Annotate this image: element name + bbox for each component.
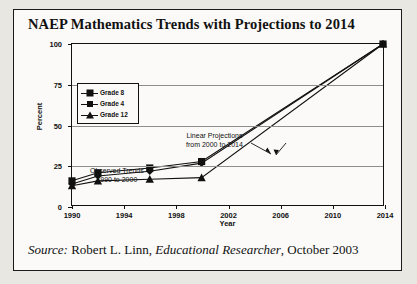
legend-item-grade-12: Grade 12 [81, 109, 135, 120]
legend-marker-square-icon [81, 87, 98, 98]
legend-label-grade-12: Grade 12 [98, 111, 128, 118]
x-tick-label-2002: 2002 [220, 211, 237, 220]
y-tick-label-75: 75 [54, 80, 62, 89]
page-title: NAEP Mathematics Trends with Projections… [28, 16, 355, 33]
x-tick-mark-1990 [72, 205, 73, 209]
annotation-projections-line2: from 2000 to 2014 [186, 140, 243, 149]
x-tick-label-1990: 1990 [64, 211, 81, 220]
legend-marker-diamond-icon [81, 98, 98, 109]
y-tick-mark-75 [68, 85, 72, 86]
legend-label-grade-8: Grade 8 [98, 89, 124, 96]
y-tick-mark-50 [68, 126, 72, 127]
x-tick-mark-2002 [229, 205, 230, 209]
legend-item-grade-4: Grade 4 [81, 98, 135, 109]
x-tick-mark-1994 [124, 205, 125, 209]
figure-container: NAEP Mathematics Trends with Projections… [0, 0, 417, 284]
y-tick-mark-25 [68, 166, 72, 167]
x-tick-mark-2014 [385, 205, 386, 209]
legend-item-grade-8: Grade 8 [81, 87, 135, 98]
y-tick-label-25: 25 [54, 162, 62, 171]
x-tick-mark-1998 [176, 205, 177, 209]
source-date: , October 2003 [281, 242, 359, 257]
gridline-y-50 [72, 126, 383, 127]
source-author: Robert L. Linn, [68, 242, 155, 257]
x-axis-label: Year [71, 219, 384, 228]
scanned-page: NAEP Mathematics Trends with Projections… [13, 9, 402, 271]
x-tick-label-2014: 2014 [377, 211, 394, 220]
source-prefix: Source: [28, 242, 68, 257]
annotation-observed-trends: Observed Trends 1990 to 2000 [90, 166, 144, 185]
source-caption: Source: Robert L. Linn, Educational Rese… [28, 242, 358, 258]
y-tick-mark-100 [68, 44, 72, 45]
chart-legend: Grade 8 Grade 4 Grade 12 [77, 83, 139, 124]
x-tick-label-1998: 1998 [168, 211, 185, 220]
x-tick-label-2006: 2006 [272, 211, 289, 220]
source-journal: Educational Researcher [155, 242, 281, 257]
annotation-observed-line1: Observed Trends [90, 166, 144, 175]
legend-label-grade-4: Grade 4 [98, 100, 124, 107]
y-tick-label-50: 50 [54, 121, 62, 130]
x-tick-label-2010: 2010 [324, 211, 341, 220]
x-tick-mark-2010 [333, 205, 334, 209]
annotation-observed-line2: 1990 to 2000 [90, 175, 144, 184]
annotation-projections-line1: Linear Projections [186, 131, 243, 140]
legend-marker-triangle-icon [81, 109, 98, 120]
x-tick-mark-2006 [281, 205, 282, 209]
x-tick-label-1994: 1994 [116, 211, 133, 220]
annotation-linear-projections: Linear Projections from 2000 to 2014 [186, 131, 243, 150]
y-axis-label: Percent [35, 103, 44, 131]
y-tick-label-0: 0 [58, 203, 62, 212]
chart: Percent Year 025507510019901994199820022… [14, 34, 403, 226]
y-tick-label-100: 100 [49, 40, 62, 49]
